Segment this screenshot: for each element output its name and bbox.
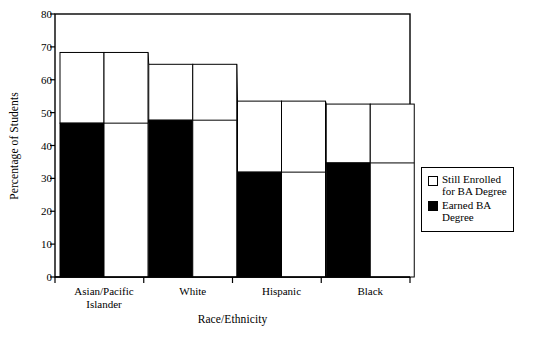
- x-axis-title: Race/Ethnicity: [55, 313, 410, 325]
- chart-legend: Still Enrolled for BA DegreeEarned BA De…: [421, 167, 514, 232]
- still-enrolled-bar: [238, 101, 282, 172]
- stack-outline-bar: [193, 64, 237, 277]
- legend-label: Earned BA Degree: [442, 199, 491, 224]
- still-enrolled-bar: [149, 64, 193, 120]
- legend-item: Still Enrolled for BA Degree: [428, 173, 507, 198]
- legend-label: Still Enrolled for BA Degree: [442, 173, 507, 198]
- still-enrolled-bar: [326, 104, 370, 163]
- earned-ba-bar: [326, 163, 370, 277]
- legend-item: Earned BA Degree: [428, 199, 507, 224]
- stack-outline-bar: [282, 101, 326, 277]
- earned-ba-bar: [238, 172, 282, 277]
- legend-swatch-earned-icon: [428, 201, 438, 211]
- earned-ba-bar: [149, 120, 193, 277]
- earned-ba-bar: [60, 123, 104, 277]
- legend-swatch-enrolled-icon: [428, 176, 438, 186]
- chart-canvas: Percentage of Students 80706050403020100…: [0, 0, 534, 337]
- x-tick-label: Black: [310, 285, 430, 298]
- stack-outline-bar: [104, 52, 148, 277]
- stack-outline-bar: [370, 104, 414, 277]
- still-enrolled-bar: [60, 52, 104, 123]
